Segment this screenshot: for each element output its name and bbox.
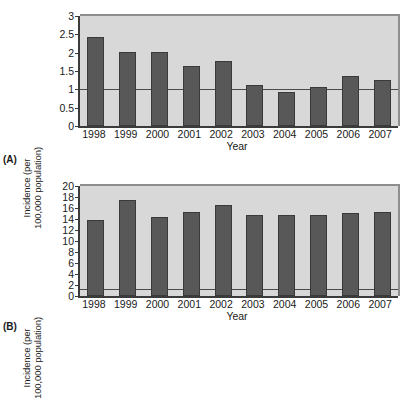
bar bbox=[119, 200, 136, 296]
y-tick-mark bbox=[75, 186, 80, 187]
y-tick-label: 0.5 bbox=[59, 102, 74, 114]
x-tick-label: 1998 bbox=[82, 298, 105, 310]
y-tick-mark bbox=[75, 219, 80, 220]
bar bbox=[246, 85, 263, 126]
panel-a: Incidence (per 100,000 population) 00.51… bbox=[0, 0, 410, 168]
bar bbox=[342, 213, 359, 296]
x-tick-label: 2006 bbox=[337, 298, 360, 310]
x-tick-label: 2001 bbox=[178, 128, 201, 140]
x-axis-title-a: Year bbox=[78, 140, 396, 152]
x-tick-label: 2002 bbox=[209, 128, 232, 140]
y-tick-label: 2 bbox=[68, 279, 74, 291]
y-tick-label: 18 bbox=[62, 191, 74, 203]
y-axis-tick-labels-b: 02468101214161820 bbox=[48, 186, 74, 296]
x-tick-label: 2006 bbox=[337, 128, 360, 140]
y-tick-label: 2 bbox=[68, 47, 74, 59]
bar bbox=[215, 61, 232, 126]
x-tick-label: 2004 bbox=[273, 128, 296, 140]
bar bbox=[151, 52, 168, 126]
plot-top-border-a bbox=[80, 14, 398, 16]
x-tick-label: 2002 bbox=[209, 298, 232, 310]
panel-label-b: (B) bbox=[3, 321, 17, 332]
bar bbox=[374, 212, 391, 296]
y-tick-mark bbox=[75, 53, 80, 54]
plot-area-a bbox=[78, 16, 398, 128]
x-tick-label: 2003 bbox=[241, 128, 264, 140]
bar bbox=[310, 87, 327, 126]
y-tick-mark bbox=[75, 16, 80, 17]
y-tick-mark bbox=[75, 71, 80, 72]
y-tick-label: 16 bbox=[62, 202, 74, 214]
bar bbox=[151, 217, 168, 296]
x-tick-label: 2004 bbox=[273, 298, 296, 310]
y-tick-label: 1 bbox=[68, 83, 74, 95]
bar bbox=[278, 92, 295, 126]
bar bbox=[342, 76, 359, 126]
x-tick-label: 2003 bbox=[241, 298, 264, 310]
bar bbox=[183, 66, 200, 126]
bar bbox=[215, 205, 232, 296]
plot-right-border-a bbox=[398, 14, 400, 126]
y-tick-label: 1.5 bbox=[59, 65, 74, 77]
x-tick-label: 2005 bbox=[305, 128, 328, 140]
y-tick-label: 6 bbox=[68, 257, 74, 269]
bar bbox=[278, 215, 295, 296]
y-tick-label: 10 bbox=[62, 235, 74, 247]
y-tick-mark bbox=[75, 274, 80, 275]
bar bbox=[374, 80, 391, 126]
y-tick-label: 4 bbox=[68, 268, 74, 280]
x-tick-label: 1999 bbox=[114, 298, 137, 310]
y-tick-mark bbox=[75, 241, 80, 242]
y-tick-mark bbox=[75, 208, 80, 209]
y-tick-mark bbox=[75, 126, 80, 127]
y-tick-label: 2.5 bbox=[59, 28, 74, 40]
y-axis-tick-labels-a: 00.511.522.53 bbox=[48, 16, 74, 126]
x-tick-label: 1998 bbox=[82, 128, 105, 140]
bar bbox=[183, 212, 200, 296]
y-tick-mark bbox=[75, 296, 80, 297]
y-tick-mark bbox=[75, 197, 80, 198]
y-tick-mark bbox=[75, 230, 80, 231]
y-tick-mark bbox=[75, 108, 80, 109]
x-tick-label: 2005 bbox=[305, 298, 328, 310]
bar bbox=[310, 215, 327, 296]
y-tick-mark bbox=[75, 285, 80, 286]
x-tick-label: 2000 bbox=[146, 298, 169, 310]
y-tick-label: 8 bbox=[68, 246, 74, 258]
bar bbox=[87, 220, 104, 296]
y-tick-label: 3 bbox=[68, 10, 74, 22]
y-tick-label: 14 bbox=[62, 213, 74, 225]
y-tick-mark bbox=[75, 252, 80, 253]
panel-label-a: (A) bbox=[3, 154, 17, 165]
y-tick-mark bbox=[75, 34, 80, 35]
plot-right-border-b bbox=[398, 184, 400, 296]
y-tick-label: 12 bbox=[62, 224, 74, 236]
plot-area-b bbox=[78, 186, 398, 298]
bar bbox=[119, 52, 136, 126]
x-tick-label: 2001 bbox=[178, 298, 201, 310]
x-tick-label: 2007 bbox=[368, 298, 391, 310]
y-tick-label: 20 bbox=[62, 180, 74, 192]
x-tick-label: 2007 bbox=[368, 128, 391, 140]
y-tick-mark bbox=[75, 263, 80, 264]
y-axis-title-b: Incidence (per 100,000 population) bbox=[22, 298, 44, 403]
plot-top-border-b bbox=[80, 184, 398, 186]
bar bbox=[87, 37, 104, 126]
x-tick-label: 2000 bbox=[146, 128, 169, 140]
x-axis-title-b: Year bbox=[78, 310, 396, 322]
bar bbox=[246, 215, 263, 296]
x-tick-label: 1999 bbox=[114, 128, 137, 140]
panel-b: Incidence (per 100,000 population) 02468… bbox=[0, 166, 410, 338]
